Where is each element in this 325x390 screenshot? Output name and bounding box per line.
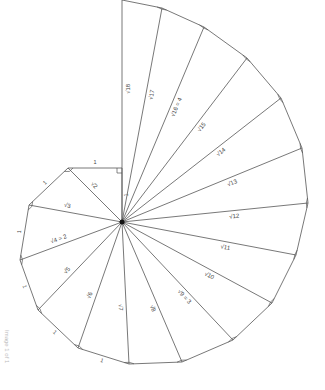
- radius-line-15: [122, 58, 247, 222]
- radius-line-5: [38, 222, 122, 310]
- hypotenuse-label-13: √13: [226, 178, 238, 188]
- unit-leg-label-6: 1: [100, 357, 105, 364]
- unit-leg-2: [29, 168, 68, 205]
- radius-line-10: [122, 222, 272, 303]
- radius-line-7: [122, 222, 129, 364]
- hypotenuse-label-11: √11: [220, 243, 231, 251]
- radius-line-14: [122, 98, 281, 222]
- unit-leg-10: [272, 255, 296, 303]
- spiral-center-point: [120, 220, 125, 225]
- hypotenuse-label-5: √5: [62, 265, 71, 274]
- radius-line-17: [122, 8, 162, 222]
- unit-leg-9: [233, 303, 272, 340]
- unit-leg-label-1: 1: [93, 159, 96, 165]
- hypotenuse-label-17: √17: [148, 89, 156, 101]
- unit-leg-16: [162, 8, 204, 27]
- hypotenuse-label-3: √3: [64, 202, 72, 209]
- hypotenuse-label-12: √12: [229, 213, 240, 220]
- hypotenuse-label-9: √9 = 3: [177, 288, 193, 305]
- unit-leg-12: [302, 148, 308, 203]
- unit-leg-label-5: 1: [52, 329, 58, 335]
- unit-leg-17: [122, 0, 162, 8]
- unit-leg-6: [78, 348, 129, 364]
- unit-leg-14: [247, 58, 281, 98]
- unit-leg-11: [296, 203, 308, 255]
- outer-unit-legs: [20, 0, 308, 364]
- hypotenuse-label-16: √16 = 4: [170, 96, 184, 118]
- unit-leg-label-3: 1: [16, 230, 22, 234]
- radius-line-12: [122, 203, 308, 222]
- hypotenuse-label-6: √6: [86, 291, 94, 300]
- hypotenuse-label-7: √7: [117, 304, 123, 312]
- radius-line-6: [78, 222, 122, 348]
- unit-leg-5: [38, 310, 78, 348]
- hypotenuse-label-18: √18: [125, 83, 131, 94]
- unit-leg-15: [204, 27, 247, 58]
- unit-leg-label-0: 1: [123, 193, 129, 196]
- hypotenuse-label-2: √2: [90, 181, 99, 190]
- unit-leg-label-4: 1: [21, 284, 28, 289]
- spiral-of-theodorus-diagram: √2√3√4 = 2√5√6√7√8√9 = 3√10√11√12√13√14√…: [0, 0, 325, 390]
- unit-leg-label-2: 1: [41, 179, 47, 185]
- radius-line-4: [20, 222, 122, 260]
- unit-leg-7: [129, 362, 182, 364]
- radius-line-13: [122, 148, 302, 222]
- unit-leg-8: [182, 340, 233, 362]
- right-angle-marker-1: [117, 168, 122, 173]
- hypotenuse-label-8: √8: [149, 304, 157, 313]
- radius-line-16: [122, 27, 204, 222]
- radius-line-8: [122, 222, 182, 362]
- unit-leg-13: [281, 98, 302, 148]
